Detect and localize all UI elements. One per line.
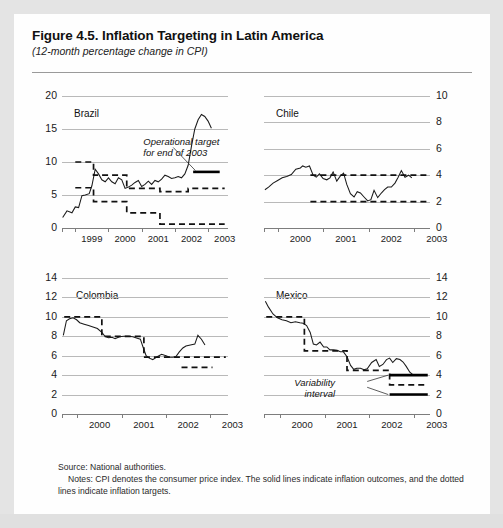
- title-block: Figure 4.5. Inflation Targeting in Latin…: [32, 28, 472, 57]
- chart-panel-mexico: Mexico024681012142000200120022003Variabi…: [254, 266, 470, 448]
- figure-card: Figure 4.5. Inflation Targeting in Latin…: [14, 14, 490, 514]
- page-edge-top: [0, 0, 503, 14]
- annotation-line: for end of 2003: [143, 147, 219, 158]
- series-target-dashed: [75, 188, 224, 224]
- chart-annotation: Variabilityinterval: [294, 377, 335, 399]
- plot-area-brazil: [34, 84, 246, 262]
- figure-notes: Notes: CPI denotes the consumer price in…: [58, 473, 470, 497]
- title-divider: [32, 72, 472, 73]
- series-line-outcome: [265, 166, 412, 201]
- plot-area-colombia: [34, 266, 246, 448]
- annotation-line: interval: [294, 388, 335, 399]
- series-line-outcome: [63, 114, 212, 217]
- figure-source: Source: National authorities.: [58, 461, 470, 473]
- figure-footer: Source: National authorities. Notes: CPI…: [58, 461, 470, 498]
- annotation-line: Operational target: [143, 136, 219, 147]
- chart-panel-brazil: Brazil0510152019992000200120022003Operat…: [34, 84, 246, 262]
- chart-panel-chile: Chile02468102000200120022003: [254, 84, 470, 262]
- annotation-leader-line-upper: [367, 375, 388, 381]
- annotation-leader-line-lower: [367, 387, 388, 394]
- series-line-outcome: [63, 318, 205, 360]
- annotation-line: Variability: [294, 377, 335, 388]
- figure-subtitle: (12-month percentage change in CPI): [32, 45, 472, 57]
- plot-area-mexico: [254, 266, 470, 448]
- figure-title: Figure 4.5. Inflation Targeting in Latin…: [32, 28, 472, 43]
- page-edge-bottom: [0, 514, 503, 528]
- chart-annotation: Operational targetfor end of 2003: [143, 136, 219, 158]
- series-target-dashed: [75, 162, 224, 192]
- series-line-outcome: [265, 301, 413, 375]
- page-edge-right: [490, 0, 503, 528]
- plot-area-chile: [254, 84, 470, 262]
- page-edge-left: [0, 0, 14, 528]
- chart-panel-colombia: Colombia024681012142000200120022003: [34, 266, 246, 448]
